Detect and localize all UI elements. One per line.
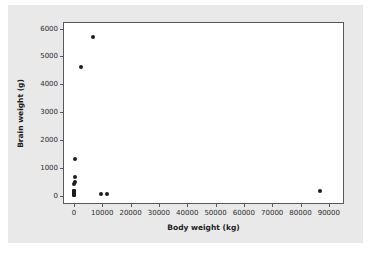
x-axis-tick bbox=[187, 203, 188, 207]
scatter-point bbox=[318, 189, 322, 193]
y-axis-tick bbox=[60, 196, 64, 197]
x-axis-tick-label: 10000 bbox=[91, 209, 113, 217]
x-axis-tick-label: 80000 bbox=[289, 209, 311, 217]
x-axis-tick bbox=[74, 203, 75, 207]
x-axis-tick-label: 50000 bbox=[204, 209, 226, 217]
x-axis-tick bbox=[102, 203, 103, 207]
x-axis-tick-label: 90000 bbox=[318, 209, 340, 217]
plot-area: 0100020003000400050006000010000200003000… bbox=[63, 22, 344, 204]
y-axis-tick bbox=[60, 29, 64, 30]
x-axis-tick bbox=[272, 203, 273, 207]
y-axis-tick-label: 2000 bbox=[40, 136, 58, 144]
x-axis-tick-label: 20000 bbox=[119, 209, 141, 217]
y-axis-tick bbox=[60, 140, 64, 141]
x-axis-tick bbox=[131, 203, 132, 207]
y-axis-title: Brain weight (g) bbox=[14, 22, 26, 204]
y-axis-tick-label: 4000 bbox=[40, 80, 58, 88]
figure-canvas: Brain weight (g) 01000200030004000500060… bbox=[8, 5, 363, 243]
scatter-point bbox=[99, 192, 103, 196]
x-axis-tick-label: 70000 bbox=[261, 209, 283, 217]
y-axis-tick-label: 5000 bbox=[40, 52, 58, 60]
scatter-point bbox=[79, 65, 83, 69]
y-axis-title-text: Brain weight (g) bbox=[16, 79, 25, 148]
scatter-series bbox=[64, 23, 343, 203]
y-axis-tick bbox=[60, 112, 64, 113]
y-axis-tick bbox=[60, 168, 64, 169]
y-axis-tick-label: 0 bbox=[54, 192, 58, 200]
scatter-point bbox=[91, 35, 95, 39]
x-axis-tick bbox=[216, 203, 217, 207]
x-axis-title: Body weight (kg) bbox=[63, 223, 344, 232]
scatter-point bbox=[73, 180, 77, 184]
scatter-point bbox=[72, 193, 76, 197]
x-axis-tick bbox=[244, 203, 245, 207]
x-axis-tick bbox=[159, 203, 160, 207]
y-axis-tick-label: 6000 bbox=[40, 25, 58, 33]
y-axis-tick bbox=[60, 56, 64, 57]
x-axis-tick-label: 60000 bbox=[233, 209, 255, 217]
scatter-point bbox=[105, 192, 109, 196]
x-axis-tick-label: 0 bbox=[72, 209, 76, 217]
x-axis-tick bbox=[329, 203, 330, 207]
x-axis-tick bbox=[301, 203, 302, 207]
scatter-point bbox=[73, 175, 77, 179]
scatter-point bbox=[73, 157, 77, 161]
x-axis-tick-label: 30000 bbox=[148, 209, 170, 217]
y-axis-tick-label: 3000 bbox=[40, 108, 58, 116]
y-axis-tick-label: 1000 bbox=[40, 164, 58, 172]
y-axis-tick bbox=[60, 84, 64, 85]
x-axis-tick-label: 40000 bbox=[176, 209, 198, 217]
